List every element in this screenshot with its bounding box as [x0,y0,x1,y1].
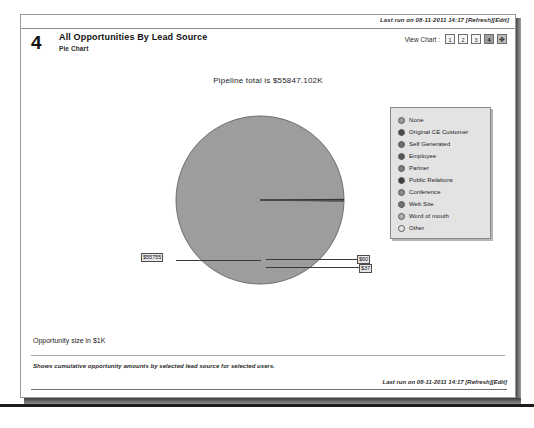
legend-label: None [409,117,424,123]
legend-item-self-generated[interactable]: Self Generated [398,138,486,150]
footer-bottom-rule [31,389,507,390]
footer-last-run-text: Last run on 08-11-2011 14:17 [383,379,464,385]
legend-swatch-icon [398,141,405,148]
legend-swatch-icon [398,225,405,232]
legend-swatch-icon [398,129,405,136]
legend-label: Partner [409,165,429,171]
legend-swatch-icon [398,189,405,196]
legend-item-public-relations[interactable]: Public Relations [398,174,486,186]
view-chart-label: View Chart : [405,36,440,43]
chart-legend: None Original CE Customer Self Generated… [390,107,491,239]
view-chart-control: View Chart : 1 2 3 4 ✥ [405,34,507,44]
page-shadow-right [516,18,521,402]
footer-edit-link[interactable]: [Edit] [492,379,507,385]
scan-bottom-margin [0,408,534,420]
callout-label-self-generated: $37 [359,264,372,273]
opportunity-size-note: Opportunity size in $1K [33,337,105,344]
report-description: Shows cumulative opportunity amounts by … [33,363,275,369]
legend-item-web-site[interactable]: Web Site [398,198,486,210]
callout-label-none: $55755 [141,253,163,262]
scan-bottom-bar [0,404,534,407]
legend-swatch-icon [398,117,405,124]
chart-title: Pipeline total is $55847.102K [21,76,515,85]
report-number: 4 [31,32,42,54]
legend-label: Other [409,225,424,231]
legend-item-other[interactable]: Other [398,222,486,234]
report-title-row: 4 All Opportunities By Lead Source Pie C… [21,29,515,63]
scanned-page-background: Last run on 08-11-2011 14:17 [Refresh][E… [0,0,534,428]
view-chart-button-3[interactable]: 3 [471,34,481,44]
callout-leader-self-generated [266,267,360,268]
legend-label: Original CE Customer [409,129,468,135]
legend-label: Web Site [409,201,434,207]
legend-item-word-of-mouth[interactable]: Word of mouth [398,210,486,222]
legend-label: Self Generated [409,141,450,147]
view-chart-button-4[interactable]: 4 [484,34,494,44]
page-title: All Opportunities By Lead Source [59,32,207,42]
legend-item-conference[interactable]: Conference [398,186,486,198]
legend-item-partner[interactable]: Partner [398,162,486,174]
header-last-run-text: Last run on 08-11-2011 14:17 [380,17,464,23]
legend-label: Public Relations [409,177,453,183]
header-last-run: Last run on 08-11-2011 14:17 [Refresh][E… [380,17,509,23]
legend-swatch-icon [398,213,405,220]
report-page: Last run on 08-11-2011 14:17 [Refresh][E… [20,14,516,398]
legend-item-original-ce-customer[interactable]: Original CE Customer [398,126,486,138]
report-subtitle: Pie Chart [59,45,88,52]
chart-area: Pipeline total is $55847.102K $55755 $60… [21,63,515,329]
footer-refresh-link[interactable]: [Refresh] [465,379,491,385]
footer-last-run: Last run on 08-11-2011 14:17 [Refresh][E… [383,379,508,385]
legend-item-employee[interactable]: Employee [398,150,486,162]
legend-swatch-icon [398,201,405,208]
callout-label-original-ce-customer: $60 [357,255,370,264]
header-edit-link[interactable]: [Edit] [493,17,509,23]
header-meta-strip: Last run on 08-11-2011 14:17 [Refresh][E… [21,15,515,29]
callout-leader-original-ce-customer [266,259,358,260]
header-refresh-link[interactable]: [Refresh] [466,17,493,23]
legend-label: Conference [409,189,441,195]
legend-item-none[interactable]: None [398,114,486,126]
view-chart-button-2[interactable]: 2 [458,34,468,44]
legend-swatch-icon [398,153,405,160]
legend-label: Employee [409,153,436,159]
view-chart-button-1[interactable]: 1 [445,34,455,44]
footer-divider [31,355,505,356]
expand-chart-icon[interactable]: ✥ [497,34,507,44]
callout-leader-none [176,260,261,261]
legend-label: Word of mouth [409,213,449,219]
legend-swatch-icon [398,165,405,172]
legend-swatch-icon [398,177,405,184]
